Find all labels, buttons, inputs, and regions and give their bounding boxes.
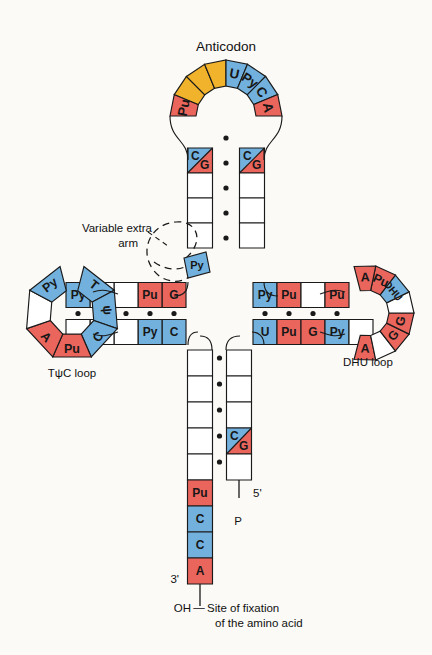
tpsic-bottom-cell-0-text: C <box>170 325 179 339</box>
dhu-bond-2 <box>310 311 315 316</box>
anticodon-stem-left-cell-0-text-2: G <box>200 158 209 172</box>
dhu-loop-text-7: A <box>360 270 369 284</box>
acceptor-tail-cell-1-text: C <box>196 512 205 526</box>
acceptor-left-cell-0 <box>188 350 213 376</box>
dhu-top-cell-2 <box>301 283 325 308</box>
acceptor-tail-cell-3-text: A <box>196 564 205 578</box>
anticodon-bond-0 <box>223 135 228 140</box>
variable-arm-label-line2: arm <box>118 237 138 249</box>
five-prime-label: 5' <box>253 487 262 499</box>
acceptor-bond-3 <box>217 433 222 438</box>
dhu-bottom-cell-2-text: G <box>308 325 317 339</box>
anticodon-label: Anticodon <box>196 39 256 54</box>
anticodon-stem-right-cell-3 <box>240 223 265 248</box>
tpsic-bond-0 <box>171 311 176 316</box>
dhu-bottom-cell-3-text: Py <box>330 325 345 339</box>
acceptor-tail-cell-2-text: C <box>196 538 205 552</box>
acceptor-right-cell-3-text-2: G <box>239 439 248 453</box>
acceptor-left-cell-2 <box>188 402 213 428</box>
acceptor-right-cell-2 <box>227 402 252 428</box>
tpsic-loop-text-3: Pu <box>64 342 80 356</box>
tpsic-bond-4 <box>75 311 80 316</box>
anticodon-stem-left-cell-2 <box>188 198 213 223</box>
acceptor-bond-0 <box>217 355 222 360</box>
anticodon-stem-left-cell-3 <box>188 223 213 248</box>
tpsic-loop-label: TψC loop <box>48 367 96 379</box>
variable-arm-py-cell-text: Py <box>190 259 204 271</box>
acceptor-left-cell-4 <box>188 454 213 480</box>
tpsic-bond-1 <box>147 311 152 316</box>
dhu-bond-3 <box>334 311 339 316</box>
dhu-bond-0 <box>262 311 267 316</box>
anticodon-stem-right-cell-0-text-2: G <box>252 158 261 172</box>
dhu-bottom-cell-1-text: Pu <box>281 325 296 339</box>
dhu-top-cell-1-text: Pu <box>281 288 296 302</box>
acceptor-tail-cell-0-text: Pu <box>192 486 207 500</box>
dhu-loop-text-0: A <box>360 341 369 355</box>
anticodon-stem-left-cell-1 <box>188 173 213 198</box>
dhu-loop-label: DHU loop <box>343 356 393 368</box>
acceptor-bond-4 <box>217 459 222 464</box>
anticodon-bond-1 <box>223 160 228 165</box>
variable-arm-label-line1: Variable extra <box>82 222 153 234</box>
acceptor-left-cell-3 <box>188 428 213 454</box>
acceptor-left-cell-1 <box>188 376 213 402</box>
dhu-bond-1 <box>286 311 291 316</box>
tpsic-loop-text-1: ψ <box>100 305 115 316</box>
anticodon-stem-right-cell-0-text-1: C <box>243 149 252 163</box>
acceptor-right-cell-4 <box>227 454 252 480</box>
acceptor-right-cell-1 <box>227 376 252 402</box>
anticodon-stem-left-cell-0-text-1: C <box>191 149 200 163</box>
anticodon-bond-2 <box>223 185 228 190</box>
acceptor-bond-2 <box>217 407 222 412</box>
phosphate-label: P <box>234 515 242 527</box>
anticodon-stem-right-cell-2 <box>240 198 265 223</box>
acceptor-right-cell-3-text-1: C <box>230 429 239 443</box>
acceptor-bond-1 <box>217 381 222 386</box>
fixation-label-line2: of the amino acid <box>215 617 303 629</box>
fixation-label-line1: Site of fixation <box>207 602 279 614</box>
oh-label: OH <box>174 602 191 614</box>
tpsic-top-cell-1-text: Pu <box>142 288 157 302</box>
three-prime-label: 3' <box>170 573 179 585</box>
trna-cloverleaf-figure: PuUPyCACGCGCGPuCCAGPuPyCPyTψCPuAPyPyPuPu… <box>0 0 432 655</box>
oh-dash: — <box>193 601 205 613</box>
tpsic-bond-2 <box>123 311 128 316</box>
trna-diagram-svg: PuUPyCACGCGCGPuCCAGPuPyCPyTψCPuAPyPyPuPu… <box>0 0 432 655</box>
tpsic-top-cell-2 <box>114 283 138 308</box>
anticodon-stem-right-cell-1 <box>240 173 265 198</box>
anticodon-bond-4 <box>223 235 228 240</box>
tpsic-top-cell-0-text: G <box>169 288 178 302</box>
tpsic-bottom-cell-1-text: Py <box>143 325 158 339</box>
anticodon-bond-3 <box>223 210 228 215</box>
acceptor-right-cell-0 <box>227 350 252 376</box>
